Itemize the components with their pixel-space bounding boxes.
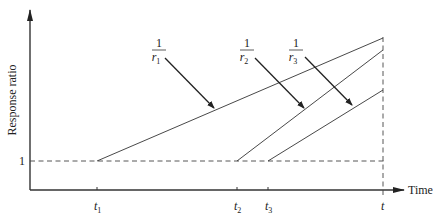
response-ratio-diagram: Response ratio Time 1 t1 t2 t3 t 1 r1 1 … bbox=[0, 0, 442, 215]
slope-label-r1: 1 r1 bbox=[152, 36, 166, 66]
tick-label-t1: t1 bbox=[94, 199, 101, 215]
x-axis-label: Time bbox=[408, 183, 433, 197]
job-2-line bbox=[237, 50, 383, 161]
slope-arrow-r1 bbox=[165, 58, 214, 108]
slope-arrow-r3 bbox=[305, 57, 352, 105]
baseline-label: 1 bbox=[19, 154, 25, 168]
tick-label-t2: t2 bbox=[234, 199, 241, 215]
y-axis-label: Response ratio bbox=[5, 65, 19, 136]
svg-text:r2: r2 bbox=[240, 50, 249, 66]
svg-text:1: 1 bbox=[244, 36, 250, 50]
svg-text:r3: r3 bbox=[289, 50, 298, 66]
job-3-line bbox=[268, 90, 383, 161]
tick-label-t: t bbox=[381, 199, 385, 213]
svg-text:1: 1 bbox=[293, 36, 299, 50]
slope-label-r2: 1 r2 bbox=[240, 36, 254, 66]
svg-text:r1: r1 bbox=[152, 50, 161, 66]
tick-label-t3: t3 bbox=[265, 199, 272, 215]
slope-label-r3: 1 r3 bbox=[289, 36, 303, 66]
svg-text:1: 1 bbox=[156, 36, 162, 50]
